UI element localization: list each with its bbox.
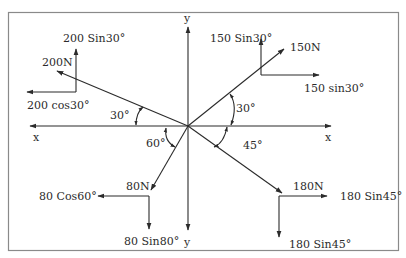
force-diagram: x x y y 200N 200 Sin30° 200 cos30° 30° 1… [0, 0, 406, 258]
force-180n: 180N 180 Sin45° 180 Sin45° 45° [188, 126, 402, 251]
force-80n-horizontal-component-label: 80 Cos60° [39, 190, 97, 203]
force-150n-label: 150N [290, 41, 321, 54]
force-180n-vertical-component-label: 180 Sin45° [289, 238, 351, 251]
x-axis-right-label: x [325, 131, 332, 144]
force-150n-angle-arc [230, 94, 234, 125]
force-200n: 200N 200 Sin30° 200 cos30° 30° [27, 32, 188, 126]
x-axis-left-label: x [33, 131, 40, 144]
force-180n-angle-arc [214, 127, 227, 147]
force-80n-angle-arc [166, 128, 175, 147]
force-150n-angle-label: 30° [236, 102, 256, 115]
force-200n-angle-label: 30° [110, 109, 130, 122]
diagram-frame [9, 13, 399, 251]
y-axis-bottom-label: y [183, 236, 191, 249]
force-180n-arrow [188, 126, 282, 193]
force-150n-horizontal-component-label: 150 sin30° [304, 82, 364, 95]
force-80n-label: 80N [126, 180, 150, 193]
force-150n-vertical-component-label: 150 Sin30° [210, 32, 272, 45]
y-axis-top-label: y [183, 12, 191, 25]
force-80n: 80N 80 Cos60° 80 Sin80° 60° [39, 126, 188, 248]
axes: x x y y [30, 12, 332, 249]
force-200n-angle-arc [136, 107, 143, 125]
force-200n-label: 200N [42, 56, 73, 69]
force-80n-angle-label: 60° [146, 137, 166, 150]
force-180n-label: 180N [293, 180, 324, 193]
force-200n-horizontal-component-label: 200 cos30° [27, 99, 89, 112]
force-180n-horizontal-component-label: 180 Sin45° [340, 190, 402, 203]
force-80n-arrow [151, 126, 188, 190]
force-200n-vertical-component-label: 200 Sin30° [63, 32, 125, 45]
force-150n: 150N 150 Sin30° 150 sin30° 30° [188, 32, 364, 126]
force-80n-vertical-component-label: 80 Sin80° [124, 235, 179, 248]
force-180n-angle-label: 45° [243, 139, 263, 152]
